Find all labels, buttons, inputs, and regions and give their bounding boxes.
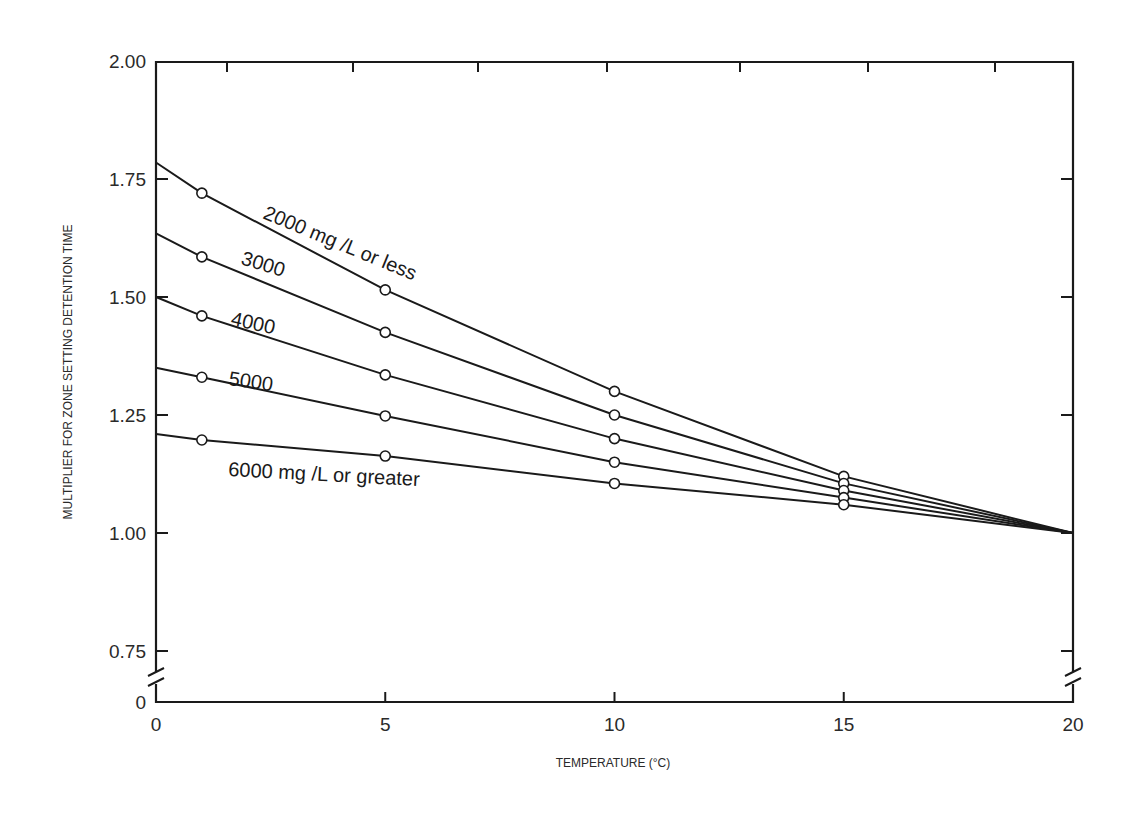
data-point-marker [380, 370, 390, 380]
y-tick-label: 1.00 [109, 523, 146, 544]
top-axis-ticks [227, 62, 995, 72]
data-point-marker [380, 327, 390, 337]
data-point-marker [610, 386, 620, 396]
data-point-marker [197, 372, 207, 382]
series-label: 4000 [229, 307, 277, 338]
series-label: 5000 [227, 367, 274, 395]
x-axis-title: TEMPERATURE (°C) [556, 756, 671, 770]
x-tick-label: 15 [833, 714, 854, 735]
data-point-marker [610, 457, 620, 467]
y-tick-label: 0.75 [109, 641, 146, 662]
data-point-marker [197, 252, 207, 262]
x-tick-label: 5 [380, 714, 391, 735]
axis-break-marks [148, 668, 1081, 686]
x-tick-label: 20 [1062, 714, 1083, 735]
data-point-marker [610, 410, 620, 420]
data-point-marker [197, 188, 207, 198]
data-point-marker [380, 285, 390, 295]
data-point-marker [610, 434, 620, 444]
x-tick-label: 0 [151, 714, 162, 735]
data-point-marker [610, 478, 620, 488]
data-point-marker [197, 311, 207, 321]
y-tick-label-zero: 0 [135, 692, 146, 713]
series-label: 2000 mg /L or less [260, 201, 420, 284]
data-point-marker [380, 451, 390, 461]
frame-top-and-sides [156, 62, 1073, 672]
data-point-marker [380, 411, 390, 421]
x-axis-ticks: 05101520 [151, 692, 1084, 735]
y-tick-label: 1.75 [109, 169, 146, 190]
series-labels: 2000 mg /L or less3000400050006000 mg /L… [227, 201, 420, 490]
series-4 [156, 434, 1073, 533]
y-axis-title: MULTIPLIER FOR ZONE SETTING DETENTION TI… [61, 225, 75, 520]
y-tick-label: 1.50 [109, 287, 146, 308]
y-tick-label: 1.25 [109, 405, 146, 426]
x-tick-label: 10 [604, 714, 625, 735]
data-point-marker [197, 435, 207, 445]
chart: 0.751.001.251.501.752.000 05101520 2000 … [0, 0, 1148, 815]
plot-frame [156, 62, 1073, 702]
y-tick-label: 2.00 [109, 51, 146, 72]
data-point-marker [839, 500, 849, 510]
series-label: 6000 mg /L or greater [228, 458, 421, 490]
